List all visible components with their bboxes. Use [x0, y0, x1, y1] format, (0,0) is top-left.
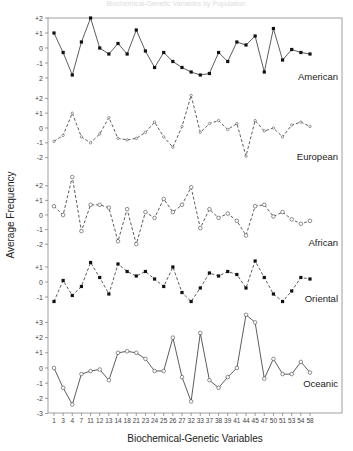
y-tick-label: +1 [35, 349, 43, 356]
data-point [89, 369, 93, 373]
x-tick-label: 24 [151, 417, 159, 424]
data-point [162, 285, 165, 288]
data-point [171, 265, 174, 268]
data-point [226, 375, 230, 379]
data-point [162, 51, 165, 54]
data-point [299, 276, 302, 279]
x-tick-label: 14 [114, 417, 122, 424]
data-point [117, 137, 119, 139]
data-point [290, 372, 294, 376]
y-tick-label: +1 [35, 264, 43, 271]
data-point [52, 366, 56, 370]
data-point [217, 386, 221, 390]
y-tick-label: 0 [39, 212, 43, 219]
data-point [125, 349, 129, 353]
data-point [299, 360, 303, 364]
data-point [135, 28, 138, 31]
data-point [144, 49, 147, 52]
panels-group: +2+10-12American+2+10-1-2European+2+10-1… [35, 15, 338, 418]
data-point [134, 242, 138, 246]
data-point [71, 294, 74, 297]
x-tick-label: 27 [178, 417, 186, 424]
data-point [98, 276, 101, 279]
data-point [217, 216, 221, 220]
data-point [52, 300, 55, 303]
x-tick-label: 33 [197, 417, 205, 424]
x-tick-label: 25 [160, 417, 168, 424]
data-point [254, 259, 257, 262]
x-tick-label: 51 [279, 417, 287, 424]
y-tick-label: -2 [37, 395, 43, 402]
x-tick-label: 13 [105, 417, 113, 424]
data-point [199, 131, 201, 133]
data-point [61, 386, 65, 390]
data-point [171, 60, 174, 63]
data-point [98, 203, 102, 207]
data-point [116, 42, 119, 45]
x-tick-label: 3 [61, 417, 65, 424]
data-point [162, 197, 166, 201]
data-point [107, 206, 111, 210]
panel-label: American [298, 71, 338, 82]
data-point [180, 203, 184, 207]
y-tick-label: +1 [35, 110, 43, 117]
data-point [199, 73, 202, 76]
x-tick-label: 23 [142, 417, 150, 424]
data-point [308, 219, 312, 223]
data-point [263, 70, 266, 73]
x-tick-label: 41 [233, 417, 241, 424]
panel-oceanic: +3+2+10-1-2-3Oceanic [35, 313, 338, 417]
series-line [54, 177, 310, 244]
data-point [199, 286, 202, 289]
panel-label: Oceanic [303, 378, 338, 389]
data-point [217, 119, 219, 121]
x-tick-label: 4 [70, 417, 74, 424]
y-tick-label: -2 [37, 241, 43, 248]
data-point [262, 203, 266, 207]
data-point [254, 119, 256, 121]
data-point [299, 222, 303, 226]
data-point [190, 70, 193, 73]
data-point [153, 369, 157, 373]
y-tick-label: 0 [39, 365, 43, 372]
data-point [272, 127, 274, 129]
data-point [244, 43, 247, 46]
data-point [226, 60, 229, 63]
data-point [217, 274, 220, 277]
data-point [181, 125, 183, 127]
data-point [290, 289, 293, 292]
data-point [189, 400, 193, 404]
y-tick-label: 0 [39, 45, 43, 52]
data-point [208, 122, 210, 124]
data-point [98, 368, 102, 372]
data-point [290, 48, 293, 51]
data-point [208, 207, 212, 211]
x-tick-label: 7 [80, 417, 84, 424]
data-point [116, 262, 119, 265]
data-point [153, 66, 156, 69]
data-point [89, 261, 92, 264]
data-point [99, 133, 101, 135]
data-point [235, 40, 238, 43]
data-point [291, 124, 293, 126]
data-point [71, 112, 73, 114]
data-point [163, 136, 165, 138]
data-point [107, 52, 110, 55]
ghost-title: Biochemical-Genetic Variables by Populat… [106, 0, 245, 8]
data-point [107, 378, 111, 382]
data-point [171, 336, 175, 340]
data-point [80, 229, 84, 233]
data-point [281, 372, 285, 376]
data-point [61, 213, 65, 217]
y-tick-label: -1 [37, 60, 43, 67]
data-point [253, 321, 257, 325]
data-point [281, 58, 284, 61]
data-point [53, 140, 55, 142]
y-tick-label: +1 [35, 30, 43, 37]
data-point [308, 371, 312, 375]
data-point [208, 72, 211, 75]
panel-label: African [308, 237, 338, 248]
data-point [135, 137, 137, 139]
data-point [162, 369, 166, 373]
data-point [144, 131, 146, 133]
